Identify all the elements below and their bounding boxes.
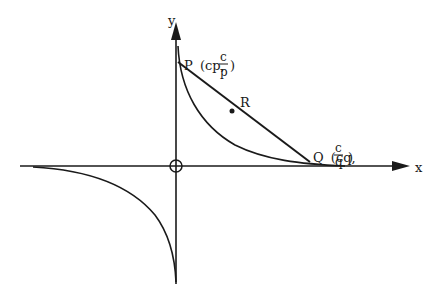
hyperbola-diagram: y x P (cp, c p ) R Q (cq, c q ) [0,0,437,300]
point-r-label: R [240,95,251,110]
hyperbola-branch-third-quadrant [33,167,176,282]
point-q-paren: ) [348,150,353,165]
x-axis-arrow-icon [392,161,410,171]
point-p-label: P (cp, [184,58,225,73]
point-q-frac-den: q [335,155,343,169]
point-r-marker [230,109,235,114]
point-p-paren: ) [230,58,235,73]
y-axis-label: y [167,13,176,28]
x-axis-label: x [415,160,423,175]
point-q-frac-num: c [335,141,342,155]
chord-pq [178,62,310,162]
point-p-frac-den: p [220,65,228,79]
point-p-frac-num: c [220,50,227,64]
